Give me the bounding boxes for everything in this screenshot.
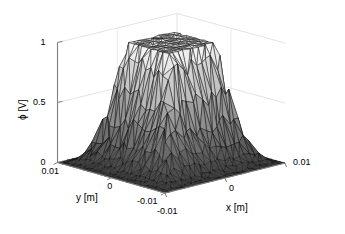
y-axis-label: y [m] [76, 193, 98, 203]
figure-3d-surface-plot: 1 0.5 0 ϕ [V] 0.01 0 -0.01 y [m] -0.01 0… [0, 0, 345, 234]
surface-plot-canvas [0, 0, 345, 234]
z-axis-label: ϕ [V] [18, 99, 28, 120]
x-tick-label-neg0point01: -0.01 [157, 207, 178, 216]
z-tick-label-0point5: 0.5 [33, 98, 46, 107]
y-tick-label-neg0point01: -0.01 [137, 197, 158, 206]
y-tick-label-0: 0 [107, 182, 112, 191]
x-axis-label: x [m] [226, 203, 248, 213]
x-tick-label-0: 0 [229, 184, 234, 193]
z-tick-label-1: 1 [40, 38, 45, 47]
y-tick-label-0point01: 0.01 [42, 167, 60, 176]
x-tick-label-0point01: 0.01 [293, 158, 311, 167]
surface-mesh-layer [58, 32, 286, 193]
